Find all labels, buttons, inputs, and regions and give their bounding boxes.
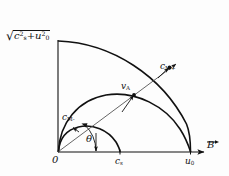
cs-tick-subscript: s [120,160,123,166]
origin-label: 0 [52,155,58,165]
diagram-canvas [0,0,229,176]
mhd-phase-speed-diagram: √c2s+u20 cM+ vA cM- θ 0 cs u0 B [0,0,229,176]
cmminus-subscript: M- [67,116,75,122]
va-subscript: A [126,85,130,91]
intersection-dot-alfven [132,93,136,97]
curve-label-fast-magnetosonic: cM+ [160,62,175,72]
curve-label-slow-magnetosonic: cM- [62,113,75,123]
x-tick-label-cs: cs [115,157,123,167]
curve-label-alfven: vA [121,82,130,92]
u0-tick-subscript: 0 [191,160,195,166]
u0-subscript: 0 [45,34,49,41]
y-axis-max-label: √c2s+u20 [6,30,50,43]
plus-operator: + [27,30,35,41]
theta-angle-label: θ [86,134,92,144]
vector-arrow-icon [207,140,219,144]
curve-fast-magnetosonic [59,41,191,152]
leader-line-va [122,96,134,113]
x-tick-label-u0: u0 [185,157,194,167]
x-axis-label: B [207,140,214,150]
cmplus-subscript: M+ [165,65,175,71]
